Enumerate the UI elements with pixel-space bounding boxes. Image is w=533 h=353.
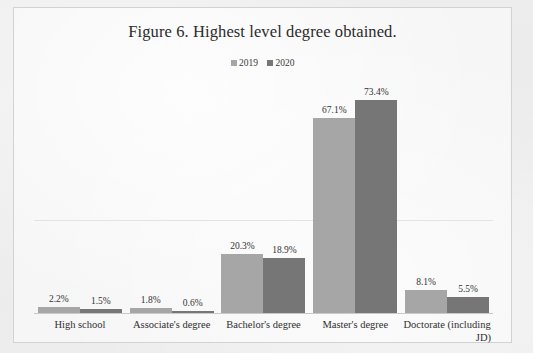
category-axis-labels: High schoolAssociate's degreeBachelor's … — [34, 318, 493, 344]
bar-rect[interactable] — [355, 100, 397, 313]
bar-2019[interactable]: 67.1% — [313, 82, 355, 313]
category-label: Bachelor's degree — [218, 318, 310, 344]
figure-title: Figure 6. Highest level degree obtained. — [14, 22, 511, 42]
bar-2020[interactable]: 18.9% — [263, 82, 305, 313]
bar-rect[interactable] — [313, 118, 355, 313]
bar-value-label: 1.8% — [141, 295, 161, 305]
legend-item-2019[interactable]: 2019 — [231, 58, 259, 68]
legend-label-2020: 2020 — [276, 58, 295, 68]
axis-baseline — [34, 313, 493, 314]
category-label: High school — [34, 318, 126, 344]
category-label: Doctorate (includingJD) — [401, 318, 493, 344]
figure-frame: Figure 6. Highest level degree obtained.… — [13, 7, 512, 343]
bar-group: 20.3%18.9% — [218, 82, 310, 313]
bar-group: 2.2%1.5% — [34, 82, 126, 313]
bar-groups: 2.2%1.5%1.8%0.6%20.3%18.9%67.1%73.4%8.1%… — [34, 82, 493, 313]
bar-rect[interactable] — [221, 254, 263, 313]
bar-value-label: 1.5% — [91, 296, 111, 306]
bar-value-label: 5.5% — [458, 284, 478, 294]
category-label-line: High school — [54, 319, 105, 330]
bar-group: 67.1%73.4% — [309, 82, 401, 313]
plot-area: 2.2%1.5%1.8%0.6%20.3%18.9%67.1%73.4%8.1%… — [34, 82, 493, 314]
bar-pair: 67.1%73.4% — [313, 82, 397, 313]
bar-pair: 2.2%1.5% — [38, 82, 122, 313]
bar-value-label: 67.1% — [322, 105, 347, 115]
category-label-line: Doctorate (including — [403, 319, 490, 330]
bar-pair: 1.8%0.6% — [130, 82, 214, 313]
bar-2020[interactable]: 0.6% — [172, 82, 214, 313]
bar-rect[interactable] — [447, 297, 489, 313]
category-label: Associate's degree — [126, 318, 218, 344]
bar-2020[interactable]: 5.5% — [447, 82, 489, 313]
bar-2020[interactable]: 73.4% — [355, 82, 397, 313]
bar-value-label: 20.3% — [230, 241, 255, 251]
legend-label-2019: 2019 — [239, 58, 258, 68]
bar-value-label: 2.2% — [49, 294, 69, 304]
bar-2019[interactable]: 20.3% — [221, 82, 263, 313]
category-label: Master's degree — [309, 318, 401, 344]
category-label-line: Associate's degree — [133, 319, 210, 330]
bar-pair: 8.1%5.5% — [405, 82, 489, 313]
bar-value-label: 73.4% — [364, 87, 389, 97]
bar-value-label: 0.6% — [183, 298, 203, 308]
category-label-line: Master's degree — [322, 319, 388, 330]
bar-2019[interactable]: 1.8% — [130, 82, 172, 313]
legend-swatch-2020 — [267, 60, 273, 66]
category-label-line: Bachelor's degree — [226, 319, 300, 330]
bar-rect[interactable] — [263, 258, 305, 313]
bar-2020[interactable]: 1.5% — [80, 82, 122, 313]
chart-legend: 2019 2020 — [14, 58, 511, 68]
bar-2019[interactable]: 2.2% — [38, 82, 80, 313]
bar-group: 1.8%0.6% — [126, 82, 218, 313]
bar-2019[interactable]: 8.1% — [405, 82, 447, 313]
bar-group: 8.1%5.5% — [401, 82, 493, 313]
bar-value-label: 18.9% — [272, 245, 297, 255]
legend-item-2020[interactable]: 2020 — [267, 58, 295, 68]
bar-pair: 20.3%18.9% — [221, 82, 305, 313]
bar-rect[interactable] — [405, 290, 447, 313]
category-label-line: JD) — [403, 331, 491, 344]
bar-value-label: 8.1% — [416, 277, 436, 287]
legend-swatch-2019 — [231, 60, 237, 66]
